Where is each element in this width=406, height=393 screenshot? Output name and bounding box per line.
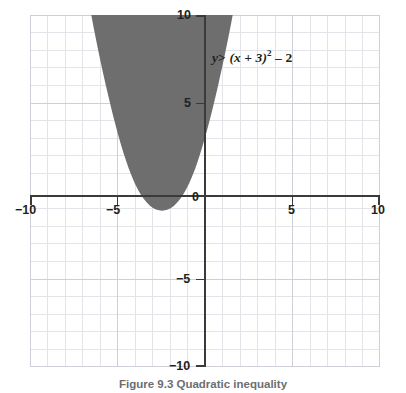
y-tick-label-neg10: −10 [169, 359, 190, 373]
annotation-exponent: 2 [267, 48, 272, 58]
annotation-suffix: – 2 [275, 50, 292, 65]
y-tick-label-neg5: −5 [176, 272, 190, 286]
quadratic-inequality-figure: y> (x + 3)2 – 2 −10 −5 0 5 10 10 5 −5 −1… [0, 0, 406, 393]
x-tick-label-5: 5 [288, 203, 295, 217]
x-tick-label-zero: 0 [192, 190, 199, 204]
figure-caption: Figure 9.3 Quadratic inequality [0, 378, 406, 390]
y-tick-label-10: 10 [177, 8, 191, 22]
y-tick-label-5: 5 [184, 96, 191, 110]
inequality-annotation: y> (x + 3)2 – 2 [212, 48, 292, 66]
annotation-expression: (x + 3) [229, 50, 267, 65]
x-tick-label-neg5: −5 [106, 203, 120, 217]
x-tick-label-10: 10 [371, 203, 385, 217]
annotation-relation: > [218, 50, 226, 65]
graph-canvas [0, 0, 406, 393]
x-tick-label-neg10: −10 [15, 203, 36, 217]
